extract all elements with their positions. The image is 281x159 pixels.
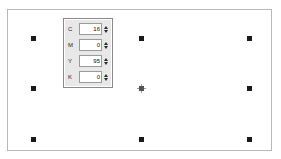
cmyk-input-k[interactable]: 0 <box>79 71 102 83</box>
handle-middle-left[interactable] <box>31 86 36 91</box>
cmyk-row-y: Y95 <box>67 54 109 68</box>
center-move-marker[interactable] <box>139 86 144 91</box>
cmyk-input-y[interactable]: 95 <box>79 55 102 67</box>
spinner-down-arrow-icon[interactable] <box>104 78 108 81</box>
cmyk-row-c: C16 <box>67 22 109 36</box>
cmyk-row-k: K0 <box>67 70 109 84</box>
cmyk-value-m: 0 <box>97 39 100 51</box>
cmyk-label-k: K <box>67 70 79 84</box>
cmyk-value-y: 95 <box>93 55 100 67</box>
handle-middle-right[interactable] <box>247 86 252 91</box>
cmyk-label-c: C <box>67 22 79 36</box>
cmyk-value-k: 0 <box>97 71 100 83</box>
handle-bottom-right[interactable] <box>247 137 252 142</box>
cmyk-row-m: M0 <box>67 38 109 52</box>
handle-bottom-left[interactable] <box>31 137 36 142</box>
spinner-down-arrow-icon[interactable] <box>104 62 108 65</box>
spinner-down-arrow-icon[interactable] <box>104 46 108 49</box>
cmyk-input-c[interactable]: 16 <box>79 23 102 35</box>
spinner-down-arrow-icon[interactable] <box>104 30 108 33</box>
cmyk-label-m: M <box>67 38 79 52</box>
app-root: C16M0Y95K0 <box>0 0 281 159</box>
handle-top-center[interactable] <box>139 36 144 41</box>
handle-top-right[interactable] <box>247 36 252 41</box>
cmyk-stepper-y[interactable] <box>103 55 109 67</box>
cmyk-stepper-m[interactable] <box>103 39 109 51</box>
cmyk-stepper-k[interactable] <box>103 71 109 83</box>
cmyk-value-c: 16 <box>93 23 100 35</box>
cmyk-stepper-c[interactable] <box>103 23 109 35</box>
cmyk-color-panel[interactable]: C16M0Y95K0 <box>63 18 113 88</box>
spinner-up-arrow-icon[interactable] <box>104 74 108 77</box>
cmyk-label-y: Y <box>67 54 79 68</box>
spinner-up-arrow-icon[interactable] <box>104 26 108 29</box>
spinner-up-arrow-icon[interactable] <box>104 42 108 45</box>
cmyk-input-m[interactable]: 0 <box>79 39 102 51</box>
handle-bottom-center[interactable] <box>139 137 144 142</box>
spinner-up-arrow-icon[interactable] <box>104 58 108 61</box>
handle-top-left[interactable] <box>31 36 36 41</box>
